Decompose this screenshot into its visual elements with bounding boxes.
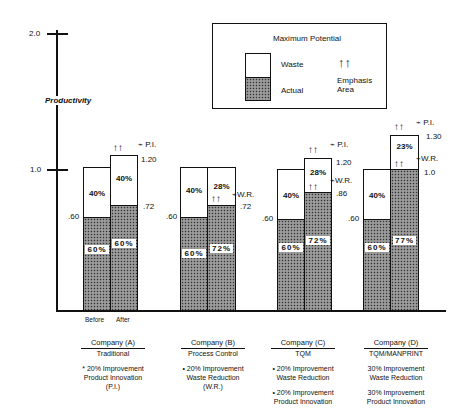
d-after-actual-pct: 77% — [390, 236, 419, 245]
legend-emphasis-2: Area — [337, 85, 354, 94]
d-pi-arrows-icon: ↑↑ — [394, 122, 404, 132]
caption-d-company: Company (D) — [364, 338, 429, 349]
caption-c-approach: TQM — [262, 349, 344, 358]
a-before-actual-pct: 60% — [83, 245, 111, 254]
b-wr-label: ⌁W.R. — [232, 190, 254, 199]
caption-a: Company (A) Traditional * 20% Improvemen… — [72, 338, 154, 391]
d-before-value: .60 — [348, 214, 359, 223]
caption-c-note-1a: • 20% Improvement — [262, 364, 344, 373]
caption-d-note-2a: 30% Improvement — [355, 388, 437, 397]
c-wr-arrows-icon: ↑↑ — [308, 182, 318, 192]
c-before-actual-pct: 60% — [277, 243, 305, 252]
caption-c-note-2b: Product Innovation — [262, 397, 344, 406]
c-before-waste-pct: 40% — [277, 191, 305, 200]
caption-a-note-3: (P.I.) — [72, 382, 154, 391]
a-before-label: Before — [85, 316, 104, 323]
b-wr-arrows-icon: ↑↑ — [211, 194, 221, 204]
d-wr-arrows-icon: ↑↑ — [394, 159, 404, 169]
a-pi-arrows-icon: ↑↑ — [113, 143, 123, 153]
a-after-top-value: 1.20 — [141, 155, 157, 164]
a-before-value: .60 — [68, 212, 79, 221]
bar-b-before-actual — [180, 217, 208, 311]
legend-emphasis-1: Emphasis — [337, 76, 372, 85]
caption-b-approach: Process Control — [172, 349, 254, 358]
y-tick-label-1: 1.0 — [30, 165, 41, 174]
d-after-value: 1.0 — [424, 168, 435, 177]
caption-b-note-3: (W.R.) — [172, 382, 254, 391]
bar-c-before-actual — [277, 219, 305, 311]
caption-b-company: Company (B) — [181, 338, 245, 349]
a-after-actual-pct: 60% — [110, 239, 138, 248]
caption-d: Company (D) TQM/MANPRINT 30% Improvement… — [355, 338, 437, 406]
legend-actual: Actual — [281, 86, 303, 95]
caption-d-note-1a: 30% Improvement — [355, 364, 437, 373]
b-after-value: .72 — [240, 202, 251, 211]
caption-c: Company (C) TQM • 20% Improvement Waste … — [262, 338, 344, 406]
b-before-value: .60 — [166, 212, 177, 221]
caption-a-note-1: * 20% Improvement — [72, 364, 154, 373]
caption-b-note-1: • 20% Improvement — [172, 364, 254, 373]
legend-waste: Waste — [281, 60, 303, 69]
caption-a-note-2: Product Innovation — [72, 373, 154, 382]
c-after-waste-pct: 28% — [304, 168, 332, 177]
bar-a-before-actual — [83, 217, 111, 311]
caption-d-approach: TQM/MANPRINT — [355, 349, 437, 358]
a-after-label: After — [116, 316, 130, 323]
caption-d-note-2b: Product Innovation — [355, 397, 437, 406]
caption-c-company: Company (C) — [271, 338, 336, 349]
d-before-actual-pct: 60% — [363, 243, 391, 252]
y-axis-label: Productivity — [45, 96, 91, 105]
caption-c-note-2a: • 20% Improvement — [262, 388, 344, 397]
legend-box: Maximum Potential Waste Actual ↑↑ Emphas… — [212, 23, 387, 109]
a-after-value: .72 — [143, 202, 154, 211]
caption-c-note-1b: Waste Reduction — [262, 373, 344, 382]
bar-a-after-actual — [110, 205, 138, 311]
c-pi-arrows-icon: ↑↑ — [308, 145, 318, 155]
caption-b-note-2: Waste Reduction — [172, 373, 254, 382]
legend-actual-swatch — [245, 77, 271, 101]
bar-d-before-actual — [363, 219, 391, 311]
y-tick-label-2: 2.0 — [29, 29, 40, 38]
c-pi-label: ⌁ P.I. — [330, 140, 348, 149]
d-wr-label: ⌁W.R. — [416, 154, 438, 163]
c-after-value: .86 — [336, 189, 347, 198]
caption-a-company: Company (A) — [81, 338, 145, 349]
legend-max-potential: Maximum Potential — [273, 34, 341, 43]
caption-d-note-1b: Waste Reduction — [355, 373, 437, 382]
caption-b: Company (B) Process Control • 20% Improv… — [172, 338, 254, 391]
y-tick-1 — [47, 169, 68, 171]
d-before-waste-pct: 40% — [363, 191, 391, 200]
b-after-actual-pct: 72% — [207, 244, 236, 253]
d-after-waste-pct: 23% — [390, 142, 419, 151]
a-before-waste-pct: 40% — [83, 189, 111, 198]
c-wr-label: ⌁W.R. — [330, 176, 352, 185]
c-after-top-value: 1.20 — [336, 158, 352, 167]
a-pi-label: ⌁ P.I. — [138, 140, 156, 149]
c-after-actual-pct: 72% — [304, 236, 332, 245]
y-axis — [56, 30, 58, 311]
bar-b-after-actual — [207, 205, 236, 311]
legend-emphasis-arrows-icon: ↑↑ — [338, 58, 351, 68]
legend-waste-swatch — [245, 53, 271, 77]
a-after-waste-pct: 40% — [110, 174, 138, 183]
b-before-actual-pct: 60% — [180, 249, 208, 258]
d-after-top-value: 1.30 — [426, 132, 442, 141]
d-pi-label: ⌁ P.I. — [416, 118, 434, 127]
b-before-waste-pct: 40% — [180, 186, 208, 195]
caption-a-approach: Traditional — [72, 349, 154, 358]
c-before-value: .60 — [262, 214, 273, 223]
y-tick-2 — [47, 33, 68, 35]
bar-c-after-actual — [304, 192, 332, 311]
